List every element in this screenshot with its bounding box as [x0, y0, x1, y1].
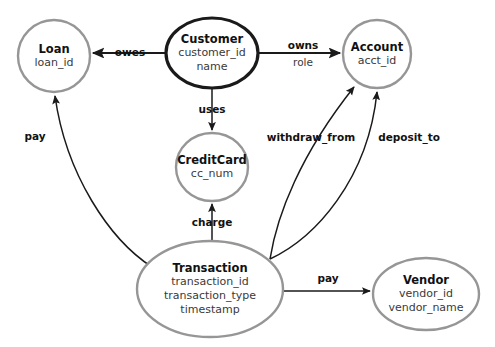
entity-node-loan[interactable]: Loanloan_id — [18, 20, 90, 92]
entity-attribute-vendor-2: vendor_name — [388, 301, 463, 314]
entity-attribute-transaction-3: timestamp — [180, 303, 239, 316]
entity-title-vendor: Vendor — [403, 273, 449, 287]
relationship-edge-deposit-to — [270, 92, 377, 259]
er-diagram-canvas: Loanloan_idCustomercustomer_idnameAccoun… — [0, 0, 495, 347]
entity-title-creditcard: CreditCard — [177, 153, 247, 167]
entity-node-transaction[interactable]: Transactiontransaction_idtransaction_typ… — [137, 241, 283, 337]
relationship-label-uses: uses — [198, 103, 225, 115]
relationship-sublabel-owns: role — [293, 56, 313, 68]
entity-attribute-account-1: acct_id — [358, 54, 397, 67]
entity-attribute-transaction-2: transaction_type — [164, 289, 256, 302]
entity-attribute-customer-1: customer_id — [178, 46, 245, 59]
relationship-label-owes: owes — [115, 46, 145, 58]
relationship-label-withdraw-from: withdraw_from — [267, 131, 355, 144]
relationship-label-pay-vendor: pay — [317, 272, 338, 284]
entity-attribute-customer-2: name — [196, 60, 227, 73]
relationship-label-charge: charge — [192, 216, 233, 228]
entity-node-creditcard[interactable]: CreditCardcc_num — [176, 133, 248, 201]
er-diagram-svg: Loanloan_idCustomercustomer_idnameAccoun… — [0, 0, 495, 347]
entity-attribute-transaction-1: transaction_id — [171, 275, 249, 288]
entity-title-account: Account — [351, 40, 404, 54]
relationship-edge-pay-loan — [55, 96, 152, 267]
relationship-label-pay-loan: pay — [24, 130, 45, 142]
entity-title-customer: Customer — [181, 32, 244, 46]
relationship-label-deposit-to: deposit_to — [378, 131, 440, 144]
entity-title-transaction: Transaction — [172, 261, 247, 275]
entity-attribute-loan-1: loan_id — [34, 56, 73, 69]
entity-nodes-layer: Loanloan_idCustomercustomer_idnameAccoun… — [18, 18, 479, 337]
relationship-label-owns: owns — [288, 39, 319, 51]
entity-title-loan: Loan — [38, 42, 69, 56]
entity-node-account[interactable]: Accountacct_id — [343, 20, 411, 88]
entity-attribute-vendor-1: vendor_id — [399, 287, 453, 300]
entity-attribute-creditcard-1: cc_num — [191, 167, 233, 180]
entity-node-customer[interactable]: Customercustomer_idname — [166, 18, 258, 88]
entity-node-vendor[interactable]: Vendorvendor_idvendor_name — [373, 258, 479, 330]
relationship-edge-withdraw-from — [270, 87, 354, 259]
